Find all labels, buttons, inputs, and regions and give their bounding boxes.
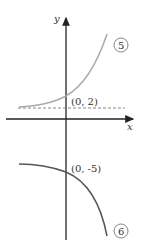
point-label-0-neg5: (0, -5) [71, 163, 101, 174]
x-axis-label: x [127, 121, 133, 132]
point-label-0-2: (0, 2) [71, 96, 98, 107]
y-axis-label: y [53, 13, 60, 24]
curve-5-label: 5 [118, 40, 124, 51]
curve-6-label: 6 [118, 226, 124, 237]
graph-canvas: y x (0, 2) 5 (0, -5) 6 [0, 0, 144, 245]
curve-6 [19, 164, 107, 236]
